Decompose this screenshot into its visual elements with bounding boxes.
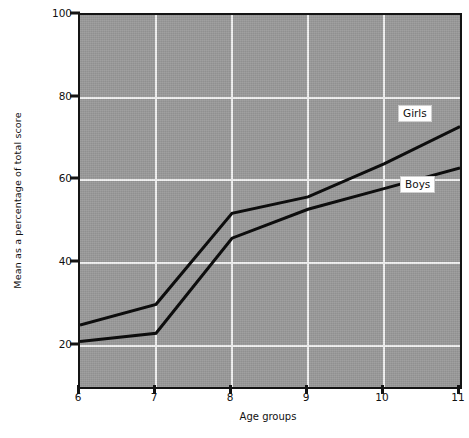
- x-axis-tick-label: 7: [142, 391, 166, 403]
- y-axis-tick-label: 60: [42, 172, 72, 184]
- x-axis-tick-label: 11: [446, 391, 469, 403]
- y-axis-tick-label: 40: [42, 255, 72, 267]
- series-lines: [80, 15, 460, 387]
- x-axis-title: Age groups: [78, 411, 458, 422]
- y-axis-tick-label: 20: [42, 338, 72, 350]
- y-axis-title: Mean as a percentage of total score: [0, 0, 34, 400]
- series-line-boys: [80, 168, 460, 342]
- y-axis-tick-label: 100: [42, 7, 72, 19]
- x-axis-tick-label: 10: [370, 391, 394, 403]
- y-axis-title-text: Mean as a percentage of total score: [12, 112, 23, 288]
- x-axis-tick-label: 6: [66, 391, 90, 403]
- series-label-girls: Girls: [398, 105, 432, 122]
- series-line-girls: [80, 127, 460, 325]
- x-axis-tick-label: 8: [218, 391, 242, 403]
- x-axis-tick-label: 9: [294, 391, 318, 403]
- plot-area: GirlsBoys: [78, 13, 462, 389]
- y-axis-tick-labels: 20406080100: [36, 0, 72, 438]
- y-axis-tick-label: 80: [42, 90, 72, 102]
- series-label-boys: Boys: [400, 176, 435, 193]
- plot-inner: GirlsBoys: [80, 15, 460, 387]
